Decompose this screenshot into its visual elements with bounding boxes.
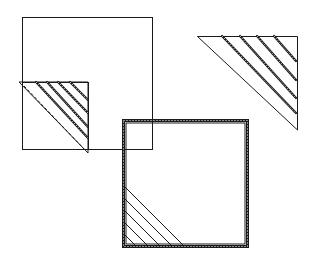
corner-diagonal-line [124,222,148,246]
corner-lines-group [124,186,184,246]
folding-diagram [0,0,316,262]
bordered-square-panel [124,121,248,247]
pleated-triangle-panel [198,36,298,130]
large-square-panel [19,18,153,154]
pleat-group-large [222,36,296,113]
corner-diagonal-line [124,186,184,246]
pleat-group-small [36,82,88,138]
corner-diagonal-line [124,198,172,246]
bordered-square-inner-line [126,123,245,244]
